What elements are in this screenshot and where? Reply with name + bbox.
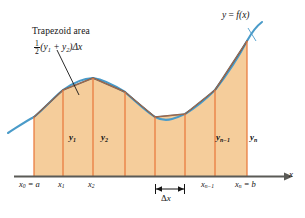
delta-x-label: Δx xyxy=(161,194,171,203)
x-axis-label: x xyxy=(289,170,293,179)
tick-x0-sub: 0 xyxy=(23,183,26,189)
ordinate-label-yn: yn xyxy=(250,133,257,142)
delta-x-right-arrowhead xyxy=(178,186,184,191)
tick-xn-tail: = b xyxy=(242,179,256,189)
curve-equation-label: y = f(x) xyxy=(222,11,250,21)
ordinate-y1-sub: 1 xyxy=(73,137,76,143)
trapezoid-area-annotation-title: Trapezoid area xyxy=(32,27,90,37)
tick-x0-tail: = a xyxy=(26,179,40,189)
tick-x1-sub: 1 xyxy=(62,183,65,189)
axis-tick-label-xn: xn = b xyxy=(235,180,256,189)
trapezoid-area-annotation-formula: 12(y1 + y2)Δx xyxy=(34,40,82,56)
formula-open: (y xyxy=(40,42,47,52)
formula-close: )Δx xyxy=(69,42,82,52)
tick-x2-sub: 2 xyxy=(92,183,95,189)
fraction-denominator: 2 xyxy=(34,48,40,56)
trapezoidal-rule-figure: Trapezoid area 12(y1 + y2)Δx y = f(x) y1… xyxy=(0,0,305,218)
curve-label-equals: = xyxy=(226,10,236,20)
axis-tick-label-x2: x2 xyxy=(88,180,95,189)
delta-x-left-arrowhead xyxy=(156,186,162,191)
ordinate-label-yn-1: yn−1 xyxy=(216,133,230,142)
ordinate-label-y1: y1 xyxy=(69,133,76,142)
ordinate-yn-1-sub: n−1 xyxy=(220,137,230,143)
delta-x-variable: x xyxy=(167,193,171,203)
ordinate-y2-sub: 2 xyxy=(105,137,108,143)
ordinate-yn-sub: n xyxy=(254,137,257,143)
axis-tick-label-x1: x1 xyxy=(58,180,65,189)
formula-plus: + y xyxy=(51,42,66,52)
axis-tick-label-xn-1: xn−1 xyxy=(201,180,214,189)
one-half-fraction: 12 xyxy=(34,40,40,56)
formula-sub-2: 2 xyxy=(66,46,69,53)
curve-label-arg: (x) xyxy=(239,10,250,20)
ordinate-label-y2: y2 xyxy=(101,133,108,142)
tick-xn-sub: n xyxy=(239,183,242,189)
tick-xn-1-sub: n−1 xyxy=(205,183,214,189)
formula-sub-1: 1 xyxy=(48,46,51,53)
axis-tick-label-x0: x0 = a xyxy=(19,180,40,189)
